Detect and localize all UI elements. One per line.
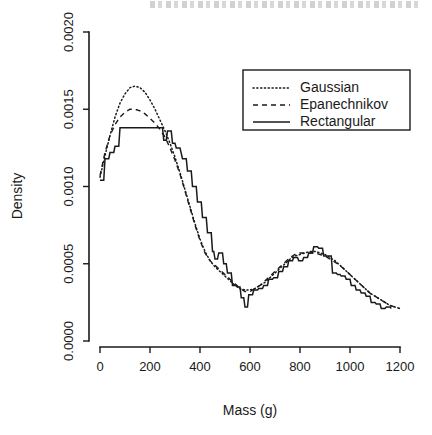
x-tick-label: 600 xyxy=(239,359,261,374)
y-tick-label: 0.0000 xyxy=(61,321,76,361)
y-axis-title: Density xyxy=(9,173,25,220)
chart-legend: GaussianEpanechnikovRectangular xyxy=(243,70,410,130)
legend-label-rectangular: Rectangular xyxy=(300,113,376,129)
y-tick-label: 0.0010 xyxy=(61,167,76,207)
x-tick-label: 400 xyxy=(189,359,211,374)
y-axis-tick-labels: 0.00000.00050.00100.00150.0020 xyxy=(61,12,76,361)
x-tick-label: 1200 xyxy=(386,359,415,374)
density-plot-figure: 0.00000.00050.00100.00150.0020 020040060… xyxy=(0,0,432,435)
x-axis-title: Mass (g) xyxy=(223,402,277,418)
x-tick-label: 0 xyxy=(96,359,103,374)
legend-label-gaussian: Gaussian xyxy=(300,79,359,95)
series-line-epanechnikov xyxy=(100,109,400,308)
x-axis-group: 020040060080010001200 xyxy=(96,347,414,374)
y-tick-label: 0.0005 xyxy=(61,244,76,284)
series-line-rectangular xyxy=(100,128,391,309)
y-tick-label: 0.0020 xyxy=(61,12,76,52)
x-axis-ticks xyxy=(100,347,400,353)
y-axis-ticks xyxy=(83,32,89,341)
x-tick-label: 800 xyxy=(289,359,311,374)
legend-label-epanechnikov: Epanechnikov xyxy=(300,96,388,112)
cropped-text-artifact xyxy=(150,1,420,8)
x-tick-label: 200 xyxy=(139,359,161,374)
x-tick-label: 1000 xyxy=(336,359,365,374)
x-axis-tick-labels: 020040060080010001200 xyxy=(96,359,414,374)
y-tick-label: 0.0015 xyxy=(61,89,76,129)
y-axis-group: 0.00000.00050.00100.00150.0020 xyxy=(61,12,89,361)
chart-canvas: 0.00000.00050.00100.00150.0020 020040060… xyxy=(0,0,432,435)
